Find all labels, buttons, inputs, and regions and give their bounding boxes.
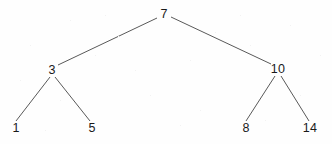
background-speck bbox=[200, 110, 201, 111]
tree-node-n3[interactable]: 3 bbox=[48, 64, 55, 77]
background-speck bbox=[190, 60, 191, 61]
background-speck bbox=[150, 95, 151, 96]
tree-edge-n3-to-n5 bbox=[55, 77, 90, 121]
background-speck bbox=[105, 15, 106, 16]
background-speck bbox=[45, 130, 46, 131]
background-speck bbox=[320, 55, 321, 56]
tree-edge-root-to-n10 bbox=[171, 17, 271, 64]
background-speck bbox=[70, 20, 71, 21]
tree-node-n8[interactable]: 8 bbox=[242, 122, 249, 135]
tree-edge-root-to-n3 bbox=[58, 18, 157, 65]
tree-node-n5[interactable]: 5 bbox=[88, 122, 95, 135]
background-speck bbox=[118, 36, 119, 37]
background-speck bbox=[20, 80, 21, 81]
background-speck bbox=[30, 45, 31, 46]
background-speck bbox=[300, 95, 301, 96]
background-speck bbox=[215, 32, 216, 33]
tree-edge-n10-to-n14 bbox=[281, 76, 309, 121]
background-speck bbox=[135, 70, 136, 71]
background-speck bbox=[265, 120, 266, 121]
background-speck bbox=[250, 45, 251, 46]
tree-node-n1[interactable]: 1 bbox=[12, 122, 19, 135]
background-speck bbox=[60, 100, 61, 101]
background-speck bbox=[180, 125, 181, 126]
tree-node-root[interactable]: 7 bbox=[160, 8, 167, 21]
tree-edge-n10-to-n8 bbox=[246, 76, 275, 121]
tree-edge-n3-to-n1 bbox=[16, 77, 50, 121]
edges-group bbox=[16, 17, 309, 121]
tree-node-n10[interactable]: 10 bbox=[271, 63, 285, 76]
background-speck bbox=[240, 15, 241, 16]
background-speck bbox=[95, 55, 96, 56]
tree-node-n14[interactable]: 14 bbox=[303, 122, 317, 135]
tree-diagram-canvas: 731015814 bbox=[0, 0, 332, 144]
background-speck bbox=[290, 25, 291, 26]
